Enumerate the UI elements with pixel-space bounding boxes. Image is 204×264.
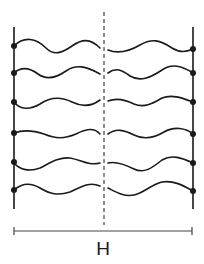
scale-bar-label: H	[0, 238, 204, 260]
anchor-dot-left	[11, 70, 17, 76]
diagram-canvas	[0, 0, 204, 264]
chain-right-half	[108, 66, 193, 79]
chain-left-half	[14, 129, 100, 137]
chain-right-half	[108, 128, 193, 137]
anchor-dot-left	[11, 99, 17, 105]
chain-left-half	[14, 39, 100, 52]
chain-right-half	[108, 157, 193, 171]
chain-left-half	[14, 67, 100, 78]
anchor-dot-right	[190, 131, 196, 137]
chain-right-half	[108, 96, 193, 105]
anchor-dot-right	[190, 99, 196, 105]
anchor-dot-left	[11, 187, 17, 193]
chain-right-half	[108, 182, 193, 196]
chain-left-half	[14, 184, 100, 194]
anchor-dot-right	[190, 70, 196, 76]
chain-left-half	[14, 98, 100, 108]
scale-bar	[14, 227, 192, 235]
chain-right-half	[108, 41, 193, 52]
anchor-dot-left	[11, 130, 17, 136]
anchor-dot-right	[190, 160, 196, 166]
anchor-dot-right	[190, 46, 196, 52]
anchor-dot-right	[190, 188, 196, 194]
anchor-dot-left	[11, 43, 17, 49]
chain-left-half	[14, 158, 100, 170]
anchor-dot-left	[11, 159, 17, 165]
